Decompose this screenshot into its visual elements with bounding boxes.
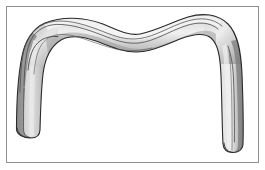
band-illustration [0,0,265,170]
band-body [10,8,250,158]
band-shading-group [10,8,250,158]
figure-root: Line drawing of a shaded, arched strip w… [0,0,265,170]
